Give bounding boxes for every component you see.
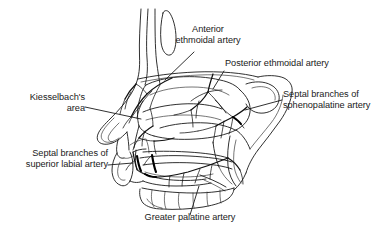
facial-profile-outline (110, 9, 160, 119)
label-septal-branches-superior-labial-artery: Septal branches of superior labial arter… (6, 148, 108, 171)
label-greater-palatine-artery: Greater palatine artery (130, 212, 250, 223)
label-anterior-ethmoidal-artery: Anterior ethmoidal artery (165, 24, 251, 47)
teeth-row (140, 188, 234, 209)
leader-greater-palatine-artery (190, 186, 199, 215)
sphenopalatine-branches-vessel (180, 107, 247, 143)
leader-posterior-ethmoidal-artery (213, 71, 224, 89)
hard-palate (135, 150, 232, 186)
anatomy-figure: Arterial blood supply of the nasal septu… (0, 0, 387, 240)
label-septal-branches-sphenopalatine-artery: Septal branches of sphenopalatine artery (283, 89, 387, 112)
upper-lip (112, 152, 143, 186)
label-kiesselbachs-area: Kiesselbach's area (9, 92, 85, 115)
leader-sphenopalatine-artery (245, 100, 282, 110)
posterior-ethmoidal-artery-vessel (174, 74, 234, 127)
label-posterior-ethmoidal-artery: Posterior ethmoidal artery (225, 58, 375, 69)
greater-palatine-artery-vessel (145, 158, 243, 187)
